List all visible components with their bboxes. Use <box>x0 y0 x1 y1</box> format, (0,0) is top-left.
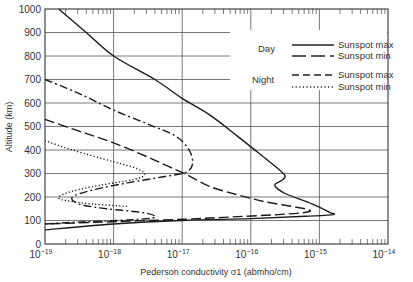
x-tick-label: 10−14 <box>373 248 396 260</box>
y-tick-label: 300 <box>24 168 41 179</box>
legend-label-night-min: Sunspot min <box>338 81 391 92</box>
x-tick-label: 10−15 <box>304 248 327 260</box>
y-tick-label: 700 <box>24 74 41 85</box>
legend-label-day-min: Sunspot min <box>338 50 391 61</box>
y-tick-label: 200 <box>24 192 41 203</box>
x-axis-title: Pederson conductivity σ1 (abmho/cm) <box>140 267 292 277</box>
y-tick-label: 100 <box>24 215 41 226</box>
x-tick-label: 10−19 <box>30 248 53 260</box>
y-tick-label: 600 <box>24 98 41 109</box>
night-sunspot-max-curve <box>45 80 193 225</box>
y-tick-label: 500 <box>24 121 41 132</box>
y-tick-label: 1000 <box>19 4 42 15</box>
legend-group-night: Night <box>252 74 275 85</box>
x-tick-label: 10−16 <box>235 248 258 260</box>
y-tick-label: 900 <box>24 27 41 38</box>
y-tick-label: 800 <box>24 51 41 62</box>
x-tick-labels: 10−1910−1810−1710−1610−1510−14 <box>30 248 396 260</box>
legend: Day Sunspot max Sunspot min Night Sunspo… <box>230 30 394 92</box>
legend-label-day-max: Sunspot max <box>338 39 394 50</box>
x-tick-label: 10−17 <box>167 248 190 260</box>
legend-group-day: Day <box>258 43 275 54</box>
legend-label-night-max: Sunspot max <box>338 69 394 80</box>
y-tick-label: 400 <box>24 145 41 156</box>
x-tick-label: 10−18 <box>98 248 121 260</box>
y-tick-labels: 01002003004005006007008009001000 <box>19 4 42 250</box>
y-axis-title: Altitude (km) <box>4 102 14 153</box>
day-sunspot-min-curve <box>45 119 310 224</box>
conductivity-altitude-chart: 01002003004005006007008009001000 10−1910… <box>0 0 413 282</box>
